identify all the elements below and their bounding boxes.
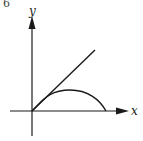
x-axis-arrow-icon	[116, 108, 129, 115]
arc-curve	[32, 90, 106, 111]
y-axis-label: y	[28, 4, 36, 18]
panel-label: 6	[3, 0, 10, 10]
x-axis-label: x	[131, 104, 138, 118]
diagram: 6 y x	[0, 0, 143, 141]
